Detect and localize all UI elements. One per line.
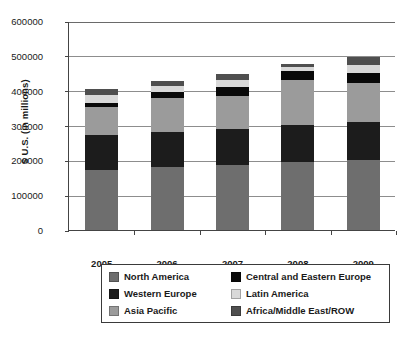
bar-segment[interactable] — [85, 107, 118, 136]
legend-swatch-icon — [231, 272, 241, 282]
legend-item[interactable]: North America — [109, 269, 227, 284]
legend-item[interactable]: Asia Pacific — [109, 303, 227, 318]
bar-stack[interactable] — [216, 74, 249, 230]
legend-item-label: Asia Pacific — [124, 306, 177, 316]
bar-segment[interactable] — [216, 80, 249, 87]
legend-swatch-icon — [109, 272, 119, 282]
legend-swatch-icon — [109, 289, 119, 299]
legend-grid: North AmericaCentral and Eastern EuropeW… — [109, 269, 383, 318]
stacked-bar-chart-figure: $ U.S. (in millions) 0100000200000300000… — [0, 0, 414, 348]
legend-item-label: Latin America — [246, 289, 308, 299]
bar-segment[interactable] — [347, 83, 380, 122]
bar-segment[interactable] — [347, 160, 380, 230]
legend-item-label: Africa/Middle East/ROW — [246, 306, 354, 316]
bar-stack[interactable] — [85, 89, 118, 230]
plot-area: 0100000200000300000400000500000600000200… — [68, 22, 395, 231]
bar-segment[interactable] — [347, 73, 380, 83]
x-axis-tick-mark — [396, 231, 397, 235]
y-axis-tick-mark — [65, 231, 69, 232]
y-axis-tick-mark — [65, 22, 69, 23]
legend-item[interactable]: Latin America — [231, 286, 383, 301]
y-axis-tick-mark — [65, 126, 69, 127]
bar-segment[interactable] — [85, 135, 118, 170]
x-axis-tick-mark — [331, 231, 332, 235]
chart-legend: North AmericaCentral and Eastern EuropeW… — [101, 264, 390, 323]
legend-swatch-icon — [231, 306, 241, 316]
bar-stack[interactable] — [281, 64, 314, 230]
legend-swatch-icon — [231, 289, 241, 299]
x-axis-tick-mark — [134, 231, 135, 235]
y-axis-tick-label: 400000 — [0, 87, 43, 97]
y-axis-tick-label: 500000 — [0, 52, 43, 62]
bar-segment[interactable] — [151, 98, 184, 133]
bar-segment[interactable] — [85, 95, 118, 103]
gridline — [69, 22, 395, 23]
bar-segment[interactable] — [347, 57, 380, 66]
y-axis-tick-label: 0 — [0, 226, 43, 236]
y-axis-tick-mark — [65, 56, 69, 57]
bar-segment[interactable] — [216, 165, 249, 230]
bar-stack[interactable] — [151, 81, 184, 230]
legend-item-label: Western Europe — [124, 289, 197, 299]
bar-segment[interactable] — [85, 170, 118, 230]
legend-item-label: Central and Eastern Europe — [246, 272, 371, 282]
legend-item[interactable]: Western Europe — [109, 286, 227, 301]
bar-segment[interactable] — [347, 65, 380, 73]
bar-segment[interactable] — [216, 129, 249, 165]
legend-item-label: North America — [124, 272, 189, 282]
legend-item[interactable]: Africa/Middle East/ROW — [231, 303, 383, 318]
y-axis-tick-mark — [65, 91, 69, 92]
bar-segment[interactable] — [216, 87, 249, 96]
bar-segment[interactable] — [281, 125, 314, 162]
y-axis-tick-label: 300000 — [0, 122, 43, 132]
y-axis-tick-mark — [65, 196, 69, 197]
bar-segment[interactable] — [151, 132, 184, 166]
bar-stack[interactable] — [347, 57, 380, 230]
y-axis-tick-mark — [65, 161, 69, 162]
bar-segment[interactable] — [216, 96, 249, 129]
bar-segment[interactable] — [347, 122, 380, 161]
y-axis-tick-label: 200000 — [0, 157, 43, 167]
legend-swatch-icon — [109, 306, 119, 316]
bar-segment[interactable] — [151, 167, 184, 230]
legend-item[interactable]: Central and Eastern Europe — [231, 269, 383, 284]
plot-inner: 0100000200000300000400000500000600000200… — [69, 22, 395, 230]
bar-segment[interactable] — [281, 71, 314, 80]
y-axis-tick-label: 100000 — [0, 191, 43, 201]
bar-segment[interactable] — [281, 162, 314, 230]
x-axis-tick-mark — [200, 231, 201, 235]
y-axis-tick-label: 600000 — [0, 17, 43, 27]
bar-segment[interactable] — [281, 80, 314, 125]
x-axis-tick-mark — [265, 231, 266, 235]
